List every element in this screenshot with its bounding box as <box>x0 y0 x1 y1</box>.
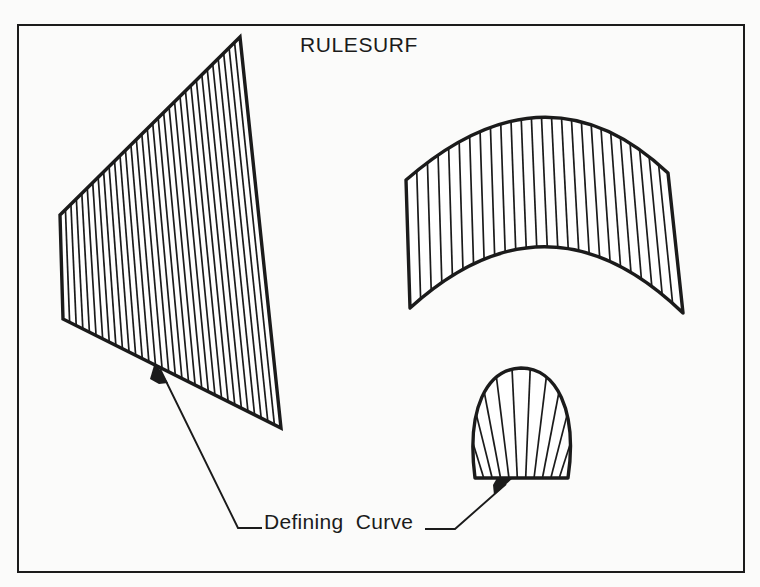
defining-curve-label: Defining Curve <box>264 510 413 534</box>
arch-ruled-surface <box>406 117 683 313</box>
figure-page: RULESURF Defining Curve <box>0 0 760 587</box>
fan-ruled-surface <box>473 368 571 478</box>
arch-outline <box>406 117 683 313</box>
rulesurf-diagram <box>0 0 760 587</box>
quadrilateral-ruled-surface <box>60 37 281 428</box>
page-title: RULESURF <box>300 33 418 57</box>
leader-right-arrowhead <box>493 478 513 495</box>
